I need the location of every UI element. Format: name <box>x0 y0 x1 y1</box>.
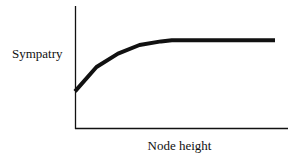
x-axis-label: Node height <box>0 138 299 154</box>
sympatry-curve <box>75 40 275 91</box>
y-axis-label: Sympatry <box>12 46 63 62</box>
